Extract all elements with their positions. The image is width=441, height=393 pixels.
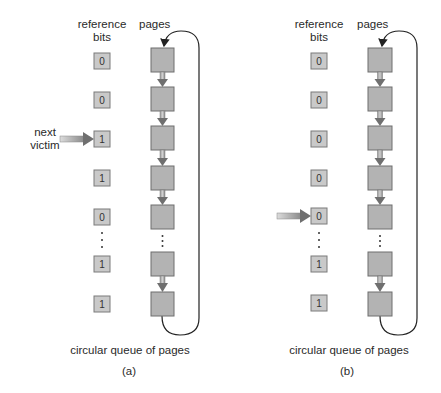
reference-bit: 0 (311, 92, 327, 108)
page-frame (368, 205, 392, 229)
reference-bit: 0 (311, 131, 327, 147)
ellipsis-icon (101, 232, 103, 248)
reference-bit: 0 (311, 170, 327, 186)
svg-text:1: 1 (99, 134, 105, 145)
svg-text:1: 1 (99, 299, 105, 310)
reference-bit: 1 (94, 256, 110, 272)
down-arrow-icon (375, 72, 386, 87)
page-frame (151, 292, 174, 316)
ellipsis-icon (379, 235, 381, 247)
next-victim-pointer-arrow-icon (277, 209, 311, 223)
down-arrow-icon (375, 111, 386, 126)
next-victim-label-line2: victim (30, 139, 59, 151)
reference-header: reference (78, 18, 127, 30)
svg-text:0: 0 (316, 211, 322, 222)
panel-a: reference bits pages 0 0 1 1 0 1 1 next … (30, 18, 199, 377)
svg-text:0: 0 (99, 212, 105, 223)
svg-text:0: 0 (316, 95, 322, 106)
reference-bit: 1 (94, 170, 110, 186)
panel-caption: (a) (122, 365, 136, 377)
page-frame (151, 252, 174, 276)
down-arrow-icon (375, 276, 386, 292)
page-frame (368, 126, 392, 150)
page-frame (151, 87, 174, 111)
reference-bit-next-victim: 0 (311, 208, 327, 224)
next-victim-pointer-arrow-icon (60, 132, 94, 146)
svg-text:1: 1 (316, 298, 322, 309)
svg-text:0: 0 (316, 56, 322, 67)
down-arrow-icon (375, 190, 386, 205)
reference-bit: 0 (94, 53, 110, 69)
ellipsis-icon (162, 235, 164, 247)
down-arrow-icon (157, 190, 168, 205)
panel-b: reference bits pages 0 0 0 0 0 1 1 circu… (277, 18, 417, 377)
reference-bit: 0 (94, 92, 110, 108)
svg-text:0: 0 (316, 134, 322, 145)
svg-text:0: 0 (99, 95, 105, 106)
page-frame (151, 166, 174, 190)
page-frame (151, 48, 174, 72)
page-frame (368, 48, 392, 72)
reference-bit-next-victim: 1 (94, 131, 110, 147)
ellipsis-icon (318, 232, 320, 248)
pages-header: pages (357, 18, 389, 30)
next-victim-label-line1: next (34, 126, 57, 138)
svg-text:1: 1 (99, 173, 105, 184)
bits-header: bits (310, 31, 328, 43)
down-arrow-icon (157, 111, 168, 126)
reference-header: reference (295, 18, 344, 30)
panel-caption: (b) (340, 365, 354, 377)
reference-bit: 0 (311, 53, 327, 69)
reference-bit: 1 (311, 256, 327, 272)
page-frame (151, 205, 174, 229)
page-frame (368, 252, 392, 276)
second-chance-diagram: reference bits pages 0 0 1 1 0 1 1 next … (0, 0, 441, 393)
bits-header: bits (93, 31, 111, 43)
pages-header: pages (139, 18, 171, 30)
svg-text:0: 0 (316, 173, 322, 184)
down-arrow-icon (157, 276, 168, 292)
queue-label: circular queue of pages (70, 344, 190, 356)
svg-text:1: 1 (316, 259, 322, 270)
down-arrow-icon (375, 150, 386, 166)
page-frame (368, 166, 392, 190)
svg-text:1: 1 (99, 259, 105, 270)
reference-bit: 1 (94, 296, 110, 312)
reference-bit: 1 (311, 295, 327, 311)
down-arrow-icon (157, 150, 168, 166)
down-arrow-icon (157, 72, 168, 87)
svg-text:0: 0 (99, 56, 105, 67)
reference-bit: 0 (94, 209, 110, 225)
page-frame (368, 87, 392, 111)
queue-label: circular queue of pages (289, 344, 409, 356)
page-frame (368, 292, 392, 316)
page-frame (151, 126, 174, 150)
